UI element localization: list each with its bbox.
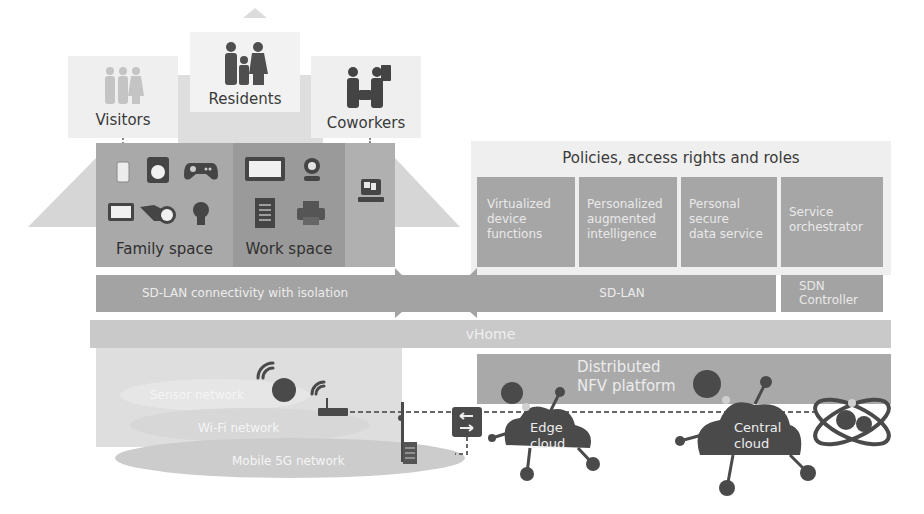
edge-cloud-label[interactable]: Edge cloud <box>530 420 565 452</box>
central-cloud-label[interactable]: Central cloud <box>734 420 781 452</box>
router-icon <box>318 398 348 416</box>
central-cloud-line: Central <box>734 420 781 436</box>
base-station-icon <box>403 442 417 464</box>
gateway-switch-icon <box>452 407 482 437</box>
network-links <box>0 0 924 514</box>
edge-cloud-line: cloud <box>530 436 565 452</box>
central-cloud-line: cloud <box>734 436 781 452</box>
edge-cloud-line: Edge <box>530 420 565 436</box>
sensor-node-icon <box>272 378 296 402</box>
